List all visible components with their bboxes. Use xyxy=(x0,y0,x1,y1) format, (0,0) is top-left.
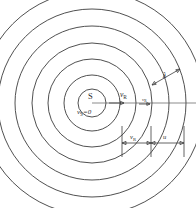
dimension-vr-label: vR xyxy=(130,133,137,142)
doppler-wavefront-figure: S vS=0 vR vR λ vR u xyxy=(0,0,196,208)
receiver-velocity-arrow xyxy=(109,101,124,104)
dimension-bar-group xyxy=(122,126,184,157)
svg-text:vR: vR xyxy=(120,90,127,100)
figure-canvas: S vS=0 vR vR λ vR u xyxy=(0,0,196,208)
dimension-u-label: u xyxy=(163,133,167,140)
receiver-velocity-small-label: vR xyxy=(142,97,147,103)
wavefront-circle-7 xyxy=(0,0,196,208)
source-symbol-label: S xyxy=(88,91,93,101)
receiver-velocity-subscript: R xyxy=(123,94,127,100)
dimension-vr-subscript: R xyxy=(133,137,137,142)
wavefront-group xyxy=(0,0,196,208)
source-velocity-label: vS=0 xyxy=(77,108,92,117)
svg-text:vR: vR xyxy=(130,133,137,142)
source-velocity-value: =0 xyxy=(83,108,92,116)
svg-text:vS=0: vS=0 xyxy=(77,108,92,117)
wavelength-label: λ xyxy=(162,71,167,80)
receiver-velocity-label: vR xyxy=(120,90,127,100)
svg-text:vR: vR xyxy=(142,97,147,103)
